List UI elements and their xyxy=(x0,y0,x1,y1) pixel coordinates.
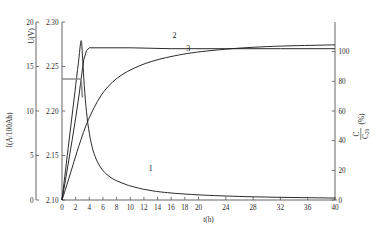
voltage-axis-title: U(V) xyxy=(27,28,36,44)
x-tick-label: 20 xyxy=(195,204,203,212)
voltage-tick-label: 2.30 xyxy=(46,19,59,27)
x-tick-label: 12 xyxy=(140,204,148,212)
curves-group xyxy=(62,41,335,200)
current-axis-title: I(A/100Ah) xyxy=(5,112,14,147)
x-tick-label: 0 xyxy=(60,204,64,212)
current-tick-label: 0 xyxy=(30,197,34,205)
voltage-tick-label: 2.25 xyxy=(46,63,59,71)
x-tick-label: 40 xyxy=(331,204,339,212)
capacity-label-units: (%) xyxy=(357,113,366,125)
x-tick-label: 14 xyxy=(154,204,162,212)
x-tick-label: 24 xyxy=(222,204,230,212)
current-tick-label: 20 xyxy=(26,19,34,27)
curve-label-3: 3 xyxy=(186,44,190,53)
x-tick-label: 8 xyxy=(115,204,119,212)
x-axis: 024681012141618202428323640t(h) xyxy=(60,197,339,224)
x-tick-label: 16 xyxy=(168,204,176,212)
x-tick-label: 28 xyxy=(250,204,258,212)
capacity-tick-label: 0 xyxy=(339,197,343,205)
curve-annotations: 123 xyxy=(149,31,191,173)
chart-container: 024681012141618202428323640t(h)2.102.152… xyxy=(0,0,378,246)
capacity-axis: 020406080100CC20(%) xyxy=(332,22,370,205)
voltage-tick-label: 2.10 xyxy=(46,197,59,205)
capacity-axis-title: CC20(%) xyxy=(352,113,370,140)
x-tick-label: 18 xyxy=(181,204,189,212)
x-tick-label: 10 xyxy=(127,204,135,212)
voltage-tick-label: 2.15 xyxy=(46,152,59,160)
capacity-tick-label: 40 xyxy=(339,137,347,145)
x-axis-title: t(h) xyxy=(203,215,214,224)
curve-series-2 xyxy=(62,48,335,200)
battery-charge-chart: 024681012141618202428323640t(h)2.102.152… xyxy=(0,0,378,246)
curve-series-3 xyxy=(62,45,335,200)
capacity-tick-label: 100 xyxy=(339,48,350,56)
capacity-label-denominator: C20 xyxy=(361,129,371,140)
voltage-tick-label: 2.20 xyxy=(46,108,59,116)
capacity-tick-label: 80 xyxy=(339,78,347,86)
x-tick-label: 36 xyxy=(304,204,312,212)
curve-label-2: 2 xyxy=(173,31,177,40)
current-tick-label: 5 xyxy=(30,152,34,160)
capacity-label-numerator: C xyxy=(352,131,361,136)
x-tick-label: 2 xyxy=(74,204,78,212)
current-tick-label: 15 xyxy=(26,63,34,71)
capacity-tick-label: 20 xyxy=(339,167,347,175)
current-tick-label: 10 xyxy=(26,108,34,116)
current-axis: 05101520I(A/100Ah) xyxy=(5,19,39,205)
curve-series-1 xyxy=(62,41,335,200)
curve-label-1: 1 xyxy=(149,164,153,173)
x-tick-label: 6 xyxy=(101,204,105,212)
x-tick-label: 32 xyxy=(277,204,285,212)
x-tick-label: 4 xyxy=(88,204,92,212)
capacity-tick-label: 60 xyxy=(339,108,347,116)
